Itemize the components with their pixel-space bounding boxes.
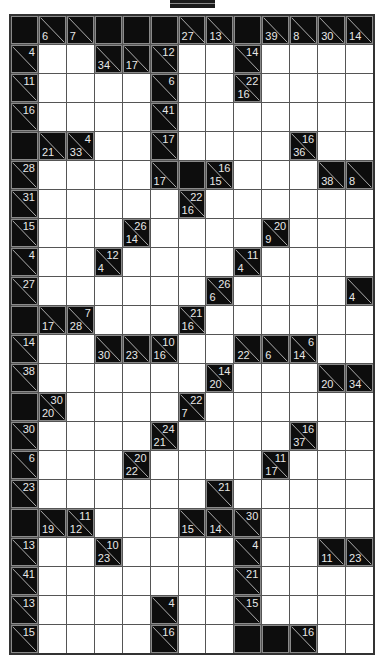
entry-cell[interactable] xyxy=(290,509,317,537)
entry-cell[interactable] xyxy=(262,596,289,624)
entry-cell[interactable] xyxy=(318,335,345,363)
entry-cell[interactable] xyxy=(67,422,94,450)
entry-cell[interactable] xyxy=(123,538,150,566)
entry-cell[interactable] xyxy=(151,364,178,392)
entry-cell[interactable] xyxy=(318,509,345,537)
entry-cell[interactable] xyxy=(151,306,178,334)
entry-cell[interactable] xyxy=(206,74,233,102)
entry-cell[interactable] xyxy=(95,161,122,189)
entry-cell[interactable] xyxy=(234,306,261,334)
entry-cell[interactable] xyxy=(290,161,317,189)
entry-cell[interactable] xyxy=(234,132,261,160)
entry-cell[interactable] xyxy=(123,625,150,653)
entry-cell[interactable] xyxy=(179,335,206,363)
entry-cell[interactable] xyxy=(234,422,261,450)
entry-cell[interactable] xyxy=(290,364,317,392)
entry-cell[interactable] xyxy=(206,132,233,160)
entry-cell[interactable] xyxy=(39,45,66,73)
entry-cell[interactable] xyxy=(179,364,206,392)
entry-cell[interactable] xyxy=(179,219,206,247)
entry-cell[interactable] xyxy=(151,393,178,421)
entry-cell[interactable] xyxy=(151,248,178,276)
entry-cell[interactable] xyxy=(206,596,233,624)
entry-cell[interactable] xyxy=(234,277,261,305)
entry-cell[interactable] xyxy=(123,190,150,218)
entry-cell[interactable] xyxy=(39,248,66,276)
entry-cell[interactable] xyxy=(179,480,206,508)
entry-cell[interactable] xyxy=(151,480,178,508)
entry-cell[interactable] xyxy=(262,509,289,537)
entry-cell[interactable] xyxy=(151,219,178,247)
entry-cell[interactable] xyxy=(318,451,345,479)
entry-cell[interactable] xyxy=(318,422,345,450)
entry-cell[interactable] xyxy=(123,277,150,305)
entry-cell[interactable] xyxy=(290,103,317,131)
entry-cell[interactable] xyxy=(262,190,289,218)
entry-cell[interactable] xyxy=(67,74,94,102)
entry-cell[interactable] xyxy=(346,248,373,276)
entry-cell[interactable] xyxy=(206,538,233,566)
entry-cell[interactable] xyxy=(206,393,233,421)
entry-cell[interactable] xyxy=(67,161,94,189)
entry-cell[interactable] xyxy=(290,74,317,102)
entry-cell[interactable] xyxy=(123,364,150,392)
entry-cell[interactable] xyxy=(234,219,261,247)
entry-cell[interactable] xyxy=(179,538,206,566)
entry-cell[interactable] xyxy=(123,74,150,102)
entry-cell[interactable] xyxy=(262,538,289,566)
entry-cell[interactable] xyxy=(346,393,373,421)
entry-cell[interactable] xyxy=(318,625,345,653)
entry-cell[interactable] xyxy=(67,596,94,624)
entry-cell[interactable] xyxy=(346,509,373,537)
entry-cell[interactable] xyxy=(67,219,94,247)
entry-cell[interactable] xyxy=(95,74,122,102)
entry-cell[interactable] xyxy=(234,364,261,392)
entry-cell[interactable] xyxy=(179,422,206,450)
entry-cell[interactable] xyxy=(318,103,345,131)
entry-cell[interactable] xyxy=(39,161,66,189)
entry-cell[interactable] xyxy=(262,45,289,73)
entry-cell[interactable] xyxy=(39,480,66,508)
entry-cell[interactable] xyxy=(39,190,66,218)
entry-cell[interactable] xyxy=(206,567,233,595)
entry-cell[interactable] xyxy=(318,567,345,595)
entry-cell[interactable] xyxy=(262,248,289,276)
entry-cell[interactable] xyxy=(262,161,289,189)
entry-cell[interactable] xyxy=(179,567,206,595)
entry-cell[interactable] xyxy=(206,103,233,131)
entry-cell[interactable] xyxy=(123,509,150,537)
entry-cell[interactable] xyxy=(39,596,66,624)
entry-cell[interactable] xyxy=(67,364,94,392)
entry-cell[interactable] xyxy=(95,306,122,334)
entry-cell[interactable] xyxy=(290,190,317,218)
entry-cell[interactable] xyxy=(67,45,94,73)
entry-cell[interactable] xyxy=(262,132,289,160)
entry-cell[interactable] xyxy=(346,74,373,102)
entry-cell[interactable] xyxy=(95,219,122,247)
entry-cell[interactable] xyxy=(123,596,150,624)
entry-cell[interactable] xyxy=(206,219,233,247)
entry-cell[interactable] xyxy=(262,393,289,421)
entry-cell[interactable] xyxy=(206,190,233,218)
entry-cell[interactable] xyxy=(67,625,94,653)
entry-cell[interactable] xyxy=(95,132,122,160)
entry-cell[interactable] xyxy=(123,480,150,508)
entry-cell[interactable] xyxy=(67,393,94,421)
entry-cell[interactable] xyxy=(123,248,150,276)
entry-cell[interactable] xyxy=(67,103,94,131)
entry-cell[interactable] xyxy=(346,596,373,624)
entry-cell[interactable] xyxy=(179,132,206,160)
entry-cell[interactable] xyxy=(346,625,373,653)
entry-cell[interactable] xyxy=(39,103,66,131)
entry-cell[interactable] xyxy=(179,451,206,479)
entry-cell[interactable] xyxy=(262,567,289,595)
entry-cell[interactable] xyxy=(95,277,122,305)
entry-cell[interactable] xyxy=(39,364,66,392)
entry-cell[interactable] xyxy=(123,422,150,450)
entry-cell[interactable] xyxy=(346,335,373,363)
entry-cell[interactable] xyxy=(290,538,317,566)
entry-cell[interactable] xyxy=(318,393,345,421)
entry-cell[interactable] xyxy=(123,567,150,595)
entry-cell[interactable] xyxy=(179,45,206,73)
entry-cell[interactable] xyxy=(39,277,66,305)
